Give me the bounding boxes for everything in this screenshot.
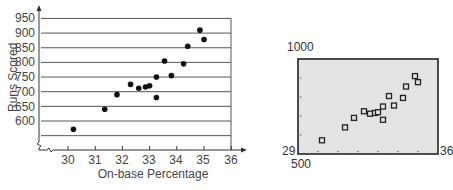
calc-data-point bbox=[320, 138, 325, 143]
y-tick-600: 600 bbox=[5, 114, 35, 128]
data-point bbox=[136, 85, 142, 91]
data-point bbox=[154, 95, 160, 101]
data-point bbox=[71, 126, 77, 132]
calc-data-point bbox=[404, 84, 409, 89]
calc-data-point bbox=[401, 95, 406, 100]
calc-data-point bbox=[392, 103, 397, 108]
calc-data-point bbox=[413, 74, 418, 79]
calc-data-point bbox=[362, 109, 367, 114]
main-scatter-chart: 950 900 850 800 750 700 650 600 Runs Sco… bbox=[0, 0, 260, 190]
data-point bbox=[181, 61, 187, 67]
calc-data-point bbox=[368, 111, 373, 116]
data-point bbox=[114, 92, 120, 98]
calc-xmin-label: 29 bbox=[282, 144, 295, 158]
x-tick-35: 35 bbox=[191, 153, 215, 167]
x-tick-31: 31 bbox=[83, 153, 107, 167]
y-tick-950: 950 bbox=[5, 11, 35, 25]
data-point bbox=[102, 106, 108, 112]
calc-ymin-label: 500 bbox=[291, 157, 311, 171]
data-point bbox=[154, 74, 160, 80]
data-point bbox=[162, 58, 168, 64]
x-tick-36: 36 bbox=[219, 153, 243, 167]
x-tick-30: 30 bbox=[56, 153, 80, 167]
calc-ymax-label: 1000 bbox=[287, 40, 314, 54]
calc-data-point bbox=[376, 110, 381, 115]
calc-data-point bbox=[381, 104, 386, 109]
x-tick-34: 34 bbox=[164, 153, 188, 167]
y-tick-900: 900 bbox=[5, 26, 35, 40]
data-point bbox=[201, 37, 207, 43]
calc-data-point bbox=[387, 94, 392, 99]
x-axis-title: On-base Percentage bbox=[93, 167, 213, 181]
x-tick-32: 32 bbox=[110, 153, 134, 167]
calc-xmax-label: 36 bbox=[440, 144, 453, 158]
calc-plot-area bbox=[297, 58, 439, 155]
data-point bbox=[128, 82, 134, 88]
calc-data-point bbox=[343, 125, 348, 130]
calculator-screen: 1000 29 500 36 bbox=[270, 40, 451, 170]
x-tick-33: 33 bbox=[137, 153, 161, 167]
y-axis-title: Runs Scored bbox=[6, 43, 20, 112]
calc-data-point bbox=[352, 115, 357, 120]
calc-data-point bbox=[416, 80, 421, 85]
data-point bbox=[147, 83, 153, 89]
data-point bbox=[197, 27, 203, 33]
data-point bbox=[185, 43, 191, 49]
calc-data-point bbox=[381, 117, 386, 122]
data-point bbox=[169, 73, 175, 79]
